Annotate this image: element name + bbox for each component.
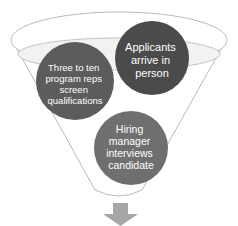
- down-arrow-icon: [103, 203, 138, 226]
- circle-interview: Hiring manager interviews candidate: [94, 111, 168, 185]
- circle-arrive: Applicants arrive in person: [115, 21, 189, 95]
- circle-screen: Three to ten program reps screen qualifi…: [36, 42, 114, 120]
- funnel-diagram: Three to ten program reps screen qualifi…: [0, 0, 238, 226]
